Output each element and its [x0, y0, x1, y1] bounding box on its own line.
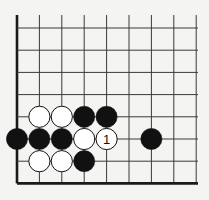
white-stone — [74, 128, 95, 149]
white-stone — [51, 151, 72, 172]
black-stone — [74, 151, 95, 172]
go-board: 1 — [0, 0, 209, 200]
black-stone — [29, 128, 50, 149]
white-stone-1: 1 — [96, 128, 117, 149]
black-stone — [74, 106, 95, 127]
black-stone — [6, 128, 27, 149]
white-stone — [51, 106, 72, 127]
white-stone — [29, 106, 50, 127]
white-stone — [29, 151, 50, 172]
black-stone — [141, 128, 162, 149]
black-stone — [51, 128, 72, 149]
black-stone — [96, 106, 117, 127]
move-number-label: 1 — [103, 132, 110, 147]
